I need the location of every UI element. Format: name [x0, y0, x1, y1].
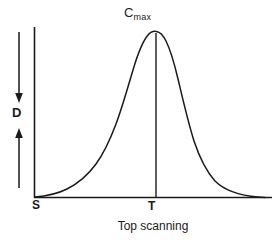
- plot-canvas: [0, 0, 275, 242]
- x-axis-label: Top scanning: [34, 220, 272, 232]
- origin-label: S: [32, 199, 40, 211]
- peak-curve: [35, 31, 266, 197]
- peak-label-subscript: max: [133, 12, 151, 22]
- peak-tick-label: T: [148, 200, 155, 212]
- gaussian-peak-figure: Cmax D S T Top scanning: [0, 0, 275, 242]
- up-arrow-icon: [15, 128, 23, 188]
- down-arrow-icon: [15, 32, 23, 103]
- y-axis-label: D: [12, 106, 21, 119]
- peak-label: Cmax: [0, 6, 275, 19]
